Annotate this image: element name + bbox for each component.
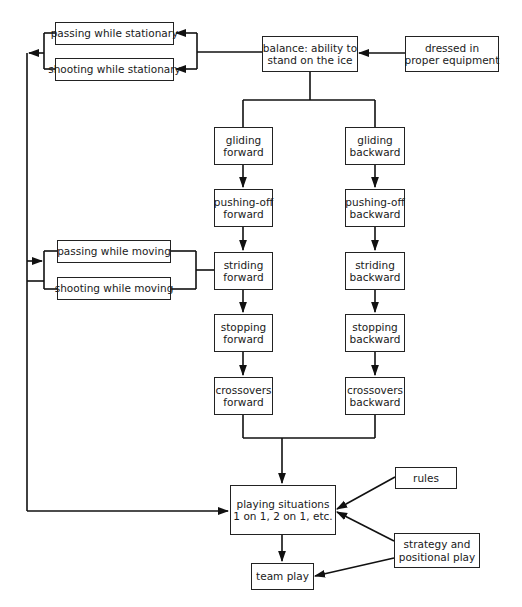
node-crossovers-backward: crossovers backward: [345, 377, 405, 415]
node-label-line1: gliding: [226, 134, 261, 147]
node-label-line1: balance: ability to: [263, 42, 357, 55]
node-stopping-backward: stopping backward: [345, 314, 405, 352]
node-passing-while-stationary: passing while stationary: [55, 22, 174, 45]
node-label: rules: [413, 472, 439, 485]
node-dressed-in-proper-equipment: dressed in proper equipment: [405, 36, 499, 72]
node-label-line1: striding: [224, 259, 264, 272]
node-stopping-forward: stopping forward: [214, 314, 273, 352]
node-label-line2: forward: [223, 146, 263, 159]
node-label-line2: positional play: [399, 551, 476, 564]
node-pushing-off-backward: pushing-off backward: [345, 189, 405, 227]
node-balance: balance: ability to stand on the ice: [262, 36, 358, 72]
node-gliding-forward: gliding forward: [214, 127, 273, 165]
node-label-line1: playing situations: [237, 498, 330, 511]
node-shooting-while-moving: shooting while moving: [57, 277, 171, 300]
node-shooting-while-stationary: shooting while stationary: [55, 58, 174, 81]
node-label-line2: forward: [223, 333, 263, 346]
node-label-line1: gliding: [357, 134, 392, 147]
node-crossovers-forward: crossovers forward: [214, 377, 273, 415]
node-label: team play: [256, 570, 309, 583]
node-label-line1: dressed in: [425, 42, 479, 55]
node-label-line2: 1 on 1, 2 on 1, etc.: [233, 510, 332, 523]
node-label: shooting while moving: [55, 282, 174, 295]
node-label: passing while moving: [57, 245, 171, 258]
node-label-line2: stand on the ice: [268, 54, 353, 67]
node-strategy-and-positional-play: strategy and positional play: [394, 533, 480, 568]
node-label-line2: backward: [350, 208, 401, 221]
node-striding-forward: striding forward: [214, 252, 273, 290]
node-playing-situations: playing situations 1 on 1, 2 on 1, etc.: [230, 485, 336, 535]
node-label-line1: pushing-off: [345, 196, 404, 209]
node-striding-backward: striding backward: [345, 252, 405, 290]
node-team-play: team play: [251, 563, 314, 590]
node-label-line2: backward: [350, 271, 401, 284]
node-label-line1: strategy and: [404, 538, 471, 551]
node-rules: rules: [395, 467, 457, 489]
node-label: shooting while stationary: [48, 63, 181, 76]
node-label-line1: stopping: [352, 321, 398, 334]
node-label-line1: crossovers: [347, 384, 403, 397]
node-label-line2: proper equipment: [405, 54, 500, 67]
node-label-line2: backward: [350, 396, 401, 409]
node-gliding-backward: gliding backward: [345, 127, 405, 165]
node-label-line1: striding: [355, 259, 395, 272]
node-label-line1: pushing-off: [214, 196, 273, 209]
node-label-line2: forward: [223, 271, 263, 284]
node-label-line1: crossovers: [215, 384, 271, 397]
node-label-line2: backward: [350, 333, 401, 346]
node-pushing-off-forward: pushing-off forward: [214, 189, 273, 227]
node-passing-while-moving: passing while moving: [57, 240, 171, 263]
node-label-line1: stopping: [221, 321, 267, 334]
node-label-line2: forward: [223, 396, 263, 409]
node-label-line2: backward: [350, 146, 401, 159]
node-label: passing while stationary: [51, 27, 179, 40]
node-label-line2: forward: [223, 208, 263, 221]
